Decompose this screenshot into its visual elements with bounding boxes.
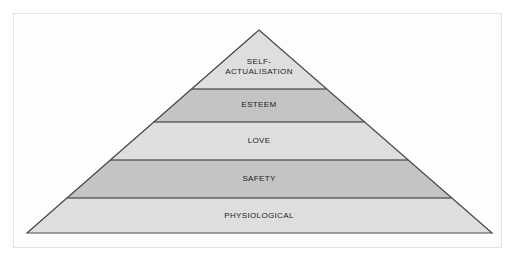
tier-label-safety: SAFETY bbox=[179, 174, 339, 184]
pyramid-diagram: SELF- ACTUALISATION ESTEEM LOVE SAFETY P… bbox=[0, 0, 515, 262]
pyramid-graphic bbox=[0, 0, 515, 262]
tier-label-esteem: ESTEEM bbox=[179, 100, 339, 110]
tier-label-physiological: PHYSIOLOGICAL bbox=[179, 211, 339, 221]
tier-label-love: LOVE bbox=[179, 136, 339, 146]
tier-label-self-actualisation: SELF- ACTUALISATION bbox=[179, 57, 339, 77]
